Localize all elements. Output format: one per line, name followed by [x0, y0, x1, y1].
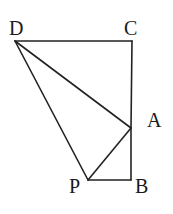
- geometry-diagram: D C A P B: [0, 0, 173, 214]
- segment-da: [15, 41, 131, 128]
- segment-ca: [131, 41, 132, 128]
- label-b: B: [135, 175, 148, 197]
- label-d: D: [9, 17, 23, 39]
- label-p: P: [69, 175, 80, 197]
- segment-ap: [88, 128, 131, 180]
- label-c: C: [124, 17, 137, 39]
- segments: [15, 41, 132, 180]
- segment-pd: [15, 41, 88, 180]
- label-a: A: [147, 109, 162, 131]
- point-labels: D C A P B: [9, 17, 162, 197]
